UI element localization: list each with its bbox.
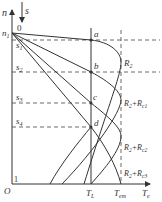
x-axis-label: Te: [142, 188, 150, 199]
point-d-label: d: [94, 118, 99, 128]
torque-speed-diagram: n s 0 1 O Te n1 s1 s2 s3 s4 TL Tem a b c…: [0, 0, 162, 202]
curve-r2-label: R2: [123, 58, 133, 69]
curve-r2-rc2: [12, 33, 121, 184]
point-a-label: a: [94, 29, 99, 39]
s-axis-label: s: [25, 5, 29, 16]
point-d: [90, 126, 93, 129]
s-one-label: 1: [14, 175, 18, 184]
tl-label: TL: [86, 188, 95, 199]
y-axis-label: n: [2, 7, 7, 18]
curve-r2-rc1-label: R2+Rc1: [123, 99, 147, 109]
s4-label: s4: [16, 116, 23, 127]
point-c-label: c: [93, 92, 97, 102]
point-b: [90, 71, 93, 74]
point-a: [90, 39, 93, 42]
curve-r2-rc1: [12, 33, 121, 184]
point-b-label: b: [94, 61, 99, 71]
tem-label: Tem: [114, 188, 127, 199]
curve-r2-rc2-label: R2+Rc2: [123, 143, 147, 153]
n1-label: n1: [2, 28, 10, 39]
s2-label: s2: [16, 62, 23, 73]
curve-r2-rc3-label: R2+Rc3: [123, 169, 147, 179]
s3-label: s3: [16, 92, 23, 103]
origin-label: O: [4, 186, 11, 196]
curve-r2: [12, 33, 121, 184]
s-zero-label: 0: [17, 23, 22, 33]
curve-r2-rc3: [12, 33, 121, 184]
